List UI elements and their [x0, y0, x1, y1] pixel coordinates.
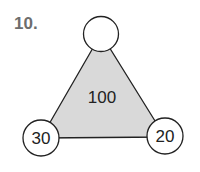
bottom-left-circle-value: 30	[32, 129, 51, 148]
top-circle[interactable]	[84, 17, 119, 52]
bottom-right-circle-value: 20	[156, 127, 175, 146]
triangle-center-value: 100	[88, 88, 116, 107]
triangle-puzzle-diagram: 100 30 20	[0, 0, 200, 172]
